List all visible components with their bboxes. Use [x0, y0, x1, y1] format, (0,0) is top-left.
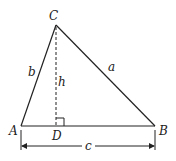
altitude-label-h: h: [58, 75, 66, 89]
side-b: [21, 25, 56, 126]
vertex-label-d: D: [51, 129, 62, 143]
vertex-label-b: B: [158, 124, 168, 138]
vertex-label-a: A: [8, 124, 18, 138]
side-label-b: b: [28, 65, 36, 79]
vertex-label-c: C: [49, 9, 58, 23]
triangle-diagram: C A B D b a h c: [0, 0, 176, 161]
side-a: [56, 25, 155, 126]
right-angle-marker: [56, 118, 64, 126]
side-label-a: a: [108, 60, 115, 74]
side-label-c: c: [85, 139, 92, 153]
